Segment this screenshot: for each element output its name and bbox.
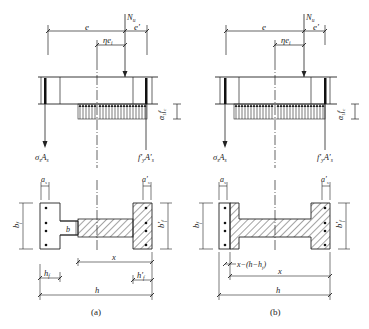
label-fy-as-a: f'yA's (138, 152, 154, 163)
label-hf-prime-a: h'f (137, 270, 146, 281)
label-e-prime-b: e' (313, 22, 320, 32)
dimension-as-b (219, 182, 330, 200)
label-alpha-fc-b: α1fc (336, 108, 346, 120)
label-sigma-as-a: σsAs (35, 152, 49, 163)
label-x-minus-b: x−(h−hf) (236, 260, 266, 270)
label-nu-a: Nu (126, 12, 136, 23)
label-as-prime-a: a's (142, 175, 150, 185)
dimension-alpha-fc-b (351, 104, 359, 119)
label-e-a: e (85, 22, 89, 32)
label-hf-a: hf (44, 268, 51, 279)
elevation-a (38, 77, 158, 104)
label-alpha-fc-a: α1fc (157, 108, 167, 120)
i-section-a (40, 203, 152, 249)
elevation-b (215, 77, 337, 104)
diagram-canvas: e e' ηei Nu (0, 0, 369, 329)
panel-b: e e' ηei Nu α1fc σsAs (191, 12, 359, 317)
label-b-web-a: b (66, 225, 70, 234)
tension-steel-arrow-a (43, 141, 48, 148)
label-as-prime-b: a's (321, 175, 329, 185)
label-as-a: as (41, 175, 47, 185)
label-x-a: x (111, 252, 116, 262)
dimension-as-a (41, 182, 151, 200)
tension-steel-arrow-b (223, 141, 228, 148)
label-h-a: h (95, 285, 99, 295)
label-bf-a: bf (11, 221, 22, 228)
dimension-e-b (224, 25, 327, 60)
dimension-bottom-b (217, 252, 332, 300)
i-section-b (219, 203, 330, 249)
label-as-b: as (220, 175, 226, 185)
label-bf-b: bf (191, 221, 202, 228)
label-sigma-as-b: σsAs (213, 152, 227, 163)
label-eta-e-a: ηei (103, 35, 113, 46)
label-bf-prime-a: b'f (156, 219, 167, 228)
dimension-alpha-fc-a (173, 104, 181, 119)
label-nu-b: Nu (305, 12, 315, 23)
panel-a: e e' ηei Nu (11, 12, 181, 317)
label-e-prime-a: e' (134, 22, 141, 32)
label-bf-prime-b: b'f (334, 219, 345, 228)
label-e-b: e (262, 22, 266, 32)
caption-a: (a) (91, 307, 101, 317)
label-h-b: h (276, 285, 280, 295)
label-x-b: x (277, 266, 282, 276)
caption-b: (b) (270, 307, 281, 317)
stress-block-b (234, 104, 325, 119)
stress-block-a (78, 104, 147, 119)
axial-force-arrow-a (123, 71, 128, 77)
axial-force-arrow-b (302, 71, 307, 77)
label-eta-e-b: ηei (281, 35, 291, 46)
label-fy-as-b: f'yA's (317, 152, 333, 163)
